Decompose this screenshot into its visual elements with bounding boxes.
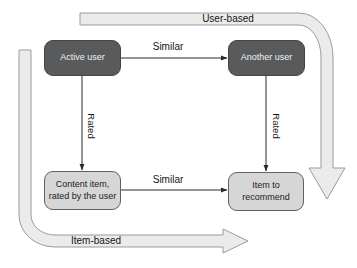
similar-users-label: Similar (124, 41, 212, 52)
node-item-to-recommend-label-line1: Item to (252, 180, 280, 192)
node-active-user: Active user (44, 40, 121, 76)
item-based-flow-arrow (19, 50, 248, 253)
user-based-label: User-based (178, 13, 278, 25)
node-content-item: Content item, rated by the user (44, 171, 121, 210)
node-another-user: Another user (228, 40, 305, 76)
diagram-canvas: Active user Another user Content item, r… (0, 0, 357, 268)
node-item-to-recommend: Item to recommend (228, 172, 304, 211)
node-item-to-recommend-label-line2: recommend (242, 192, 290, 204)
rated-right-label: Rated (270, 106, 282, 146)
similar-items-label: Similar (124, 174, 212, 185)
node-content-item-label-line1: Content item, (56, 179, 110, 191)
rated-left-label: Rated (85, 106, 97, 146)
item-based-label: Item-based (46, 235, 146, 247)
node-content-item-label-line2: rated by the user (49, 191, 117, 203)
node-active-user-label: Active user (60, 52, 105, 64)
node-another-user-label: Another user (241, 52, 293, 64)
user-based-flow-arrow (80, 13, 345, 199)
